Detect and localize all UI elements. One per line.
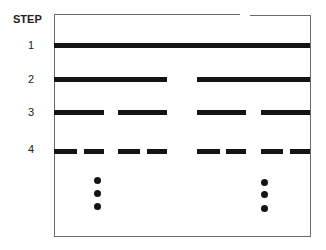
step-label-3: 3: [28, 106, 34, 118]
dot-icon: [94, 203, 101, 210]
step-label-2: 2: [28, 73, 34, 85]
step-3-segment: [54, 110, 104, 115]
step-4-segment: [197, 149, 220, 154]
step-2-segment: [197, 77, 310, 82]
step-4-segment: [118, 149, 140, 154]
step-4-segment: [54, 149, 77, 154]
step-4-segment: [226, 149, 246, 154]
frame-right: [310, 15, 311, 237]
step-2-segment: [54, 77, 167, 82]
dot-icon: [261, 191, 268, 198]
step-label-1: 1: [28, 39, 34, 51]
step-4-segment: [261, 149, 283, 154]
step-4-segment: [290, 149, 310, 154]
step-3-segment: [261, 110, 310, 115]
step-1-segment: [54, 43, 310, 48]
step-header: STEP: [13, 13, 42, 25]
frame-bottom: [54, 236, 311, 237]
step-4-segment: [84, 149, 104, 154]
step-3-segment: [118, 110, 167, 115]
frame-top-right: [250, 15, 311, 16]
step-label-4: 4: [28, 143, 34, 155]
frame-top-left: [54, 14, 240, 15]
dot-icon: [261, 205, 268, 212]
step-4-segment: [147, 149, 167, 154]
dot-icon: [94, 177, 101, 184]
dot-icon: [261, 179, 268, 186]
step-3-segment: [197, 110, 246, 115]
dot-icon: [94, 190, 101, 197]
